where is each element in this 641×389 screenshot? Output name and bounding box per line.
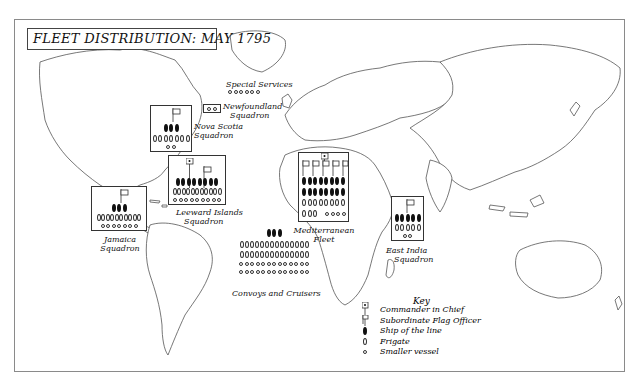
smaller-vessel-icon <box>256 90 260 94</box>
south-america-coast <box>146 223 212 355</box>
convoys-and-cruisers-ships <box>234 229 314 284</box>
caribbean-islands <box>150 200 167 207</box>
east-india-squadron-box <box>391 196 424 241</box>
subordinate-flag-icon <box>362 315 370 324</box>
key-item-frigate: Frigate <box>380 337 410 346</box>
smaller-vessel-icon <box>213 107 217 111</box>
british-isles-coast <box>282 94 292 108</box>
nova-scotia-label: Nova Scotia Squadron <box>194 122 243 140</box>
special-services-label: Special Services <box>226 80 293 89</box>
subordinate-flags-icon <box>301 160 349 176</box>
ship-of-line-icon <box>363 327 367 335</box>
subordinate-flag-icon <box>172 108 182 122</box>
key-item-smaller-vessel: Smaller vessel <box>380 347 439 356</box>
nova-scotia-squadron-box <box>150 105 192 152</box>
smaller-vessel-icon <box>239 90 243 94</box>
leeward-islands-squadron-box <box>168 155 226 205</box>
map-key: Key Commander in Chief Subordinate Flag … <box>360 296 510 371</box>
special-services-ships <box>228 90 260 94</box>
smaller-vessel-icon <box>250 90 254 94</box>
smaller-vessel-icon <box>363 350 367 354</box>
smaller-vessel-icon <box>228 90 232 94</box>
indonesia-islands <box>489 195 544 217</box>
key-item-ship-of-line: Ship of the line <box>380 326 442 335</box>
australia-coast <box>516 241 602 298</box>
ship-of-line-icon <box>169 124 173 132</box>
smaller-vessel-icon <box>207 107 211 111</box>
ship-of-line-icon <box>164 124 168 132</box>
leeward-islands-label: Leeward Islands Squadron <box>176 208 243 226</box>
newfoundland-label: Newfoundland Squadron <box>223 102 282 120</box>
smaller-vessel-icon <box>234 90 238 94</box>
subordinate-flag-icon <box>120 189 130 203</box>
key-item-subordinate: Subordinate Flag Officer <box>380 316 481 325</box>
convoys-label: Convoys and Cruisers <box>232 289 321 298</box>
ship-of-line-icon <box>175 124 179 132</box>
east-india-label: East India Squadron <box>386 246 433 264</box>
map-title: FLEET DISTRIBUTION: MAY 1795 <box>27 28 217 50</box>
jamaica-label: Jamaica Squadron <box>98 235 142 253</box>
smaller-vessel-icon <box>245 90 249 94</box>
new-zealand-coast <box>615 296 622 310</box>
newfoundland-squadron-box <box>203 104 221 113</box>
subordinate-flag-icon <box>406 199 416 213</box>
key-item-commander: Commander in Chief <box>380 305 464 314</box>
mediterranean-fleet-box <box>298 152 349 222</box>
jamaica-squadron-box <box>91 186 147 231</box>
frigate-icon <box>363 338 367 345</box>
